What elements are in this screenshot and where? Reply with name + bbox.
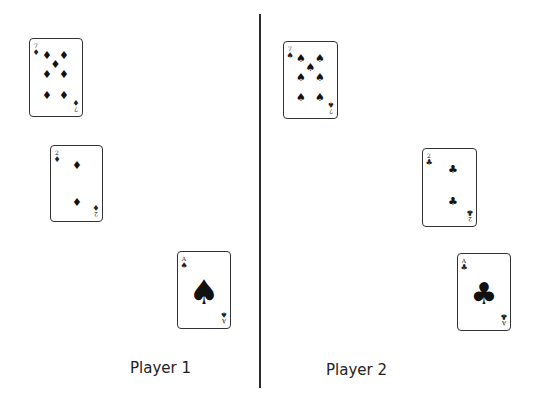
card-corner-top: A♠ (180, 255, 188, 269)
spade-icon: ♠ (315, 72, 325, 83)
card-corner-bottom: 2♣ (466, 209, 474, 223)
spade-icon: ♠ (296, 53, 306, 64)
diamond-icon: ♦ (59, 90, 69, 101)
diamond-icon: ♦ (42, 69, 52, 80)
diamond-icon: ♦ (42, 90, 52, 101)
player-1-label: Player 1 (130, 359, 191, 377)
card-p1-2-diamonds: 2♦ ♦ ♦ 2♦ (50, 145, 103, 222)
card-p2-ace-clubs: A♣ ♣ A♣ (457, 253, 511, 331)
spade-icon: ♠ (180, 262, 188, 269)
card-corner-top: 2♦ (53, 149, 61, 163)
player-2-label: Player 2 (326, 361, 387, 379)
card-corner-bottom: 7♠ (327, 101, 335, 115)
card-corner-top: 2♣ (425, 152, 433, 166)
spade-icon: ♠ (315, 92, 325, 103)
card-corner-bottom: A♣ (500, 313, 508, 327)
card-corner-bottom: 7♦ (72, 99, 80, 113)
card-corner-top: 7♦ (32, 42, 40, 56)
player-divider (259, 14, 261, 388)
card-p2-2-clubs: 2♣ ♣ ♣ 2♣ (422, 148, 477, 227)
card-corner-bottom: 2♦ (92, 204, 100, 218)
card-corner-top: A♣ (460, 257, 468, 271)
spade-icon: ♠ (220, 311, 228, 318)
club-icon: ♣ (471, 277, 498, 311)
spade-icon: ♠ (315, 53, 325, 64)
diamond-icon: ♦ (53, 156, 61, 163)
spade-icon: ♠ (327, 101, 335, 108)
club-icon: ♣ (460, 264, 468, 271)
spade-icon: ♠ (296, 92, 306, 103)
diamond-icon: ♦ (72, 197, 82, 208)
card-p1-7-diamonds: 7♦ ♦ ♦ ♦ ♦ ♦ ♦ ♦ 7♦ (29, 38, 83, 117)
diamond-icon: ♦ (92, 204, 100, 211)
club-icon: ♣ (500, 313, 508, 320)
card-p2-7-spades: 7♠ ♠ ♠ ♠ ♠ ♠ ♠ ♠ 7♠ (283, 41, 338, 119)
spade-icon: ♠ (306, 62, 316, 73)
diamond-icon: ♦ (59, 69, 69, 80)
club-icon: ♣ (448, 196, 458, 207)
spade-icon: ♠ (296, 72, 306, 83)
club-icon: ♣ (425, 159, 433, 166)
spade-icon: ♠ (286, 52, 294, 59)
diamond-icon: ♦ (72, 99, 80, 106)
card-corner-bottom: A♠ (220, 311, 228, 325)
card-p1-ace-spades: A♠ ♠ A♠ (177, 251, 231, 329)
diamond-icon: ♦ (72, 160, 82, 171)
card-corner-top: 7♠ (286, 45, 294, 59)
spade-icon: ♠ (189, 275, 219, 309)
diamond-icon: ♦ (32, 49, 40, 56)
club-icon: ♣ (448, 164, 458, 175)
club-icon: ♣ (466, 209, 474, 216)
diamond-icon: ♦ (59, 50, 69, 61)
